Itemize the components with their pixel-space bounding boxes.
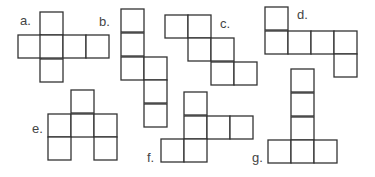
net-f-label: f. — [147, 150, 154, 165]
net-square — [48, 114, 71, 137]
net-square — [334, 31, 357, 54]
net-square — [63, 35, 86, 58]
net-b-label: b. — [99, 14, 110, 29]
net-square — [144, 80, 167, 103]
net-square — [184, 116, 207, 139]
net-square — [144, 104, 167, 127]
net-square — [161, 139, 184, 162]
net-d-label: d. — [297, 7, 308, 22]
net-square — [144, 57, 167, 80]
net-square — [184, 139, 207, 162]
net-square — [291, 140, 314, 163]
net-square — [121, 33, 144, 56]
net-square — [334, 54, 357, 77]
net-square — [207, 116, 230, 139]
net-square — [18, 35, 41, 58]
net-e: e. — [32, 90, 117, 160]
net-square — [211, 38, 234, 61]
net-square — [121, 57, 144, 80]
net-square — [121, 9, 144, 32]
net-g: g. — [252, 69, 337, 165]
net-square — [314, 140, 337, 163]
net-a-label: a. — [20, 13, 31, 28]
net-c-label: c. — [220, 16, 230, 31]
net-square — [265, 31, 288, 54]
net-d: d. — [265, 7, 357, 77]
net-c: c. — [165, 15, 257, 85]
net-square — [211, 62, 234, 85]
net-square — [230, 116, 253, 139]
net-square — [311, 31, 334, 54]
net-square — [71, 114, 94, 137]
net-square — [188, 38, 211, 61]
net-square — [291, 93, 314, 116]
net-square — [71, 90, 94, 113]
net-square — [265, 7, 288, 30]
net-square — [40, 12, 63, 35]
cube-nets-diagram: a. b. c. d. e. f. g. — [0, 0, 375, 177]
net-square — [188, 15, 211, 38]
net-square — [40, 35, 63, 58]
net-square — [234, 62, 257, 85]
net-square — [291, 69, 314, 92]
net-square — [268, 140, 291, 163]
net-square — [48, 137, 71, 160]
net-square — [40, 59, 63, 82]
net-square — [184, 92, 207, 115]
net-square — [291, 117, 314, 140]
net-b: b. — [99, 9, 167, 127]
net-square — [94, 137, 117, 160]
net-square — [288, 31, 311, 54]
net-square — [86, 35, 109, 58]
net-e-label: e. — [32, 121, 43, 136]
net-a: a. — [18, 12, 109, 82]
net-square — [165, 15, 188, 38]
net-g-label: g. — [252, 150, 263, 165]
net-square — [94, 114, 117, 137]
